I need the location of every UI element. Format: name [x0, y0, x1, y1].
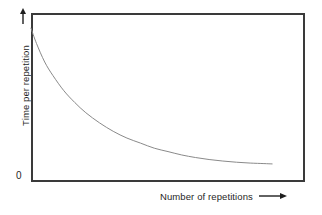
- y-axis-label: Time per repetition: [20, 11, 31, 161]
- origin-zero-label: 0: [16, 170, 22, 182]
- right-arrow-icon: [259, 191, 287, 201]
- plot-area: [31, 13, 305, 182]
- x-axis-label: Number of repetitions: [160, 191, 253, 202]
- learning-curve-line: [31, 28, 272, 164]
- x-axis-label-group: Number of repetitions: [160, 188, 287, 204]
- learning-curve-figure: Time per repetition 0 Number of repetiti…: [0, 0, 322, 215]
